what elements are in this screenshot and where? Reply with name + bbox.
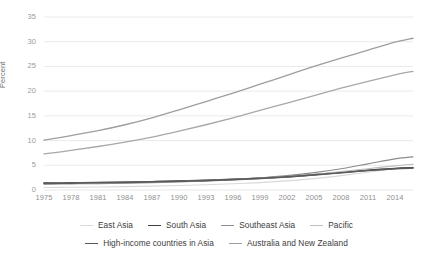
legend-row: East AsiaSouth AsiaSoutheast AsiaPacific [0,216,433,234]
x-tick-label: 1987 [143,193,160,202]
x-tick-label: 2002 [278,193,295,202]
legend-entry[interactable]: South Asia [148,220,206,230]
x-tick-label: 1990 [170,193,187,202]
x-tick-label: 1978 [62,193,79,202]
line-chart-figure: Percent 35302520151050 19751978198119841… [0,0,433,257]
series-line [44,71,413,154]
x-tick-label: 1993 [197,193,214,202]
legend-label: Pacific [328,220,353,230]
y-tick-label: 5 [10,161,36,169]
chart-legend: East AsiaSouth AsiaSoutheast AsiaPacific… [0,216,433,252]
legend-label: East Asia [98,220,133,230]
legend-entry[interactable]: East Asia [80,220,133,230]
x-tick-label: 1981 [89,193,106,202]
legend-label: High-income countries in Asia [103,238,214,248]
x-tick-label: 1996 [224,193,241,202]
series-line [44,38,413,140]
y-axis-title: Percent [0,61,7,88]
x-tick-label: 2005 [305,193,322,202]
legend-line-swatch-icon [310,225,323,226]
legend-label: Southeast Asia [239,220,295,230]
x-tick-label: 1975 [35,193,52,202]
y-tick-label: 30 [10,38,36,46]
x-tick-label: 2011 [360,193,377,202]
legend-row: High-income countries in AsiaAustralia a… [0,234,433,252]
plot-area [44,17,413,190]
legend-line-swatch-icon [229,243,242,244]
x-tick-label: 2008 [332,193,349,202]
legend-entry[interactable]: High-income countries in Asia [85,238,214,248]
legend-line-swatch-icon [221,225,234,226]
y-tick-label: 35 [10,13,36,21]
legend-entry[interactable]: Australia and New Zealand [229,238,348,248]
series-canvas [44,17,413,190]
legend-label: Australia and New Zealand [247,238,348,248]
legend-line-swatch-icon [80,225,93,226]
y-tick-label: 0 [10,186,36,194]
legend-label: South Asia [166,220,206,230]
legend-entry[interactable]: Pacific [310,220,353,230]
y-tick-label: 15 [10,112,36,120]
y-tick-label: 10 [10,137,36,145]
legend-line-swatch-icon [148,225,161,226]
legend-entry[interactable]: Southeast Asia [221,220,295,230]
x-axis-tick-labels: 1975197819811984198719901993199619992002… [44,193,413,205]
cropped-title-remnant [0,0,433,5]
y-tick-label: 20 [10,87,36,95]
x-tick-label: 1999 [251,193,268,202]
x-tick-label: 2014 [386,193,403,202]
x-tick-label: 1984 [116,193,133,202]
y-tick-label: 25 [10,62,36,70]
legend-line-swatch-icon [85,243,98,244]
